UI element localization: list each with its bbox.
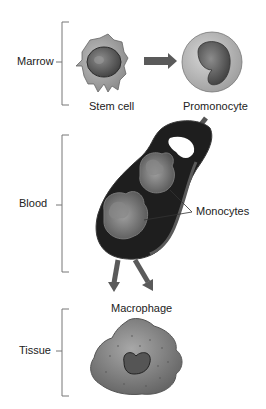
promonocyte-illustration bbox=[182, 32, 242, 92]
marrow-bracket bbox=[56, 22, 69, 105]
stage-label-marrow: Marrow bbox=[17, 55, 54, 67]
macrophage-label: Macrophage bbox=[111, 302, 172, 314]
stem-cell-label: Stem cell bbox=[89, 100, 134, 112]
stem-cell-illustration bbox=[76, 34, 128, 92]
arrows-blood-to-tissue bbox=[108, 260, 153, 292]
monocytes-label: Monocytes bbox=[196, 205, 249, 217]
stage-label-blood: Blood bbox=[19, 197, 47, 209]
arrow-stem-to-promonocyte bbox=[144, 53, 177, 69]
blood-bracket bbox=[56, 135, 69, 272]
monocyte-upper bbox=[140, 153, 175, 193]
monocyte-lower bbox=[104, 192, 148, 239]
macrophage-illustration bbox=[91, 319, 182, 395]
tissue-bracket bbox=[56, 309, 69, 396]
stage-label-tissue: Tissue bbox=[19, 344, 51, 356]
promonocyte-label: Promonocyte bbox=[183, 100, 248, 112]
